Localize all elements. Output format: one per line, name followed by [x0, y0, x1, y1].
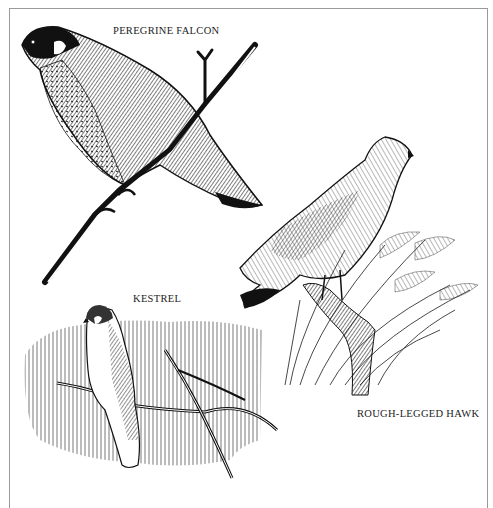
label-rough-legged-hawk: ROUGH-LEGGED HAWK	[357, 408, 479, 419]
rough-legged-hawk-drawing	[240, 137, 478, 395]
kestrel-drawing	[25, 305, 277, 478]
label-peregrine-falcon: PEREGRINE FALCON	[113, 25, 219, 36]
peregrine-falcon-drawing	[22, 27, 262, 282]
label-kestrel: KESTREL	[133, 293, 181, 304]
